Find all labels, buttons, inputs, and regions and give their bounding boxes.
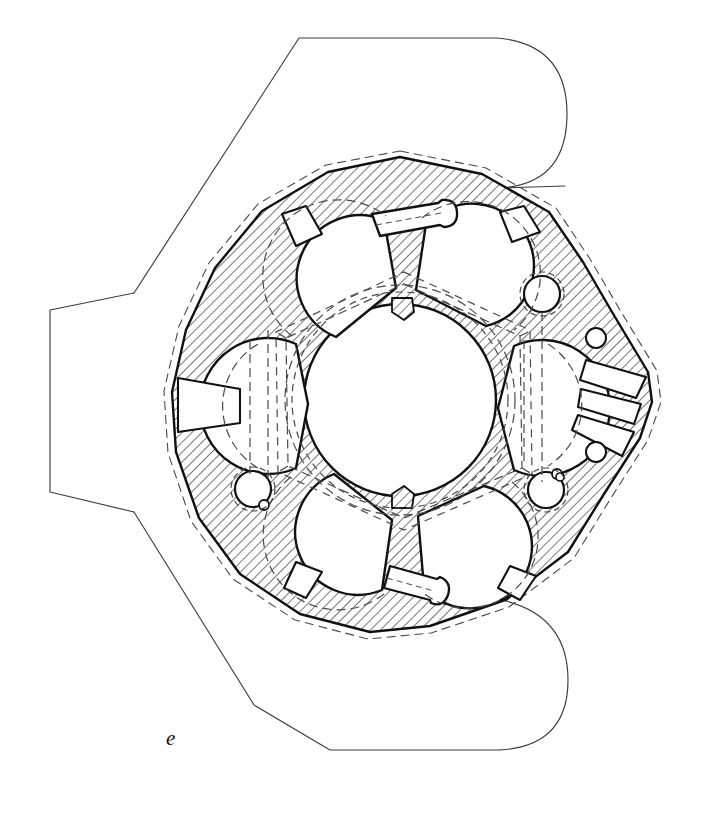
column-e-lower — [586, 442, 606, 462]
figure-label: e — [166, 728, 175, 749]
column-ne — [524, 276, 560, 312]
architectural-plan-drawing — [0, 0, 704, 815]
column-se-nub — [556, 473, 564, 481]
figure-plate: e — [0, 0, 704, 815]
column-e-upper — [586, 328, 606, 348]
